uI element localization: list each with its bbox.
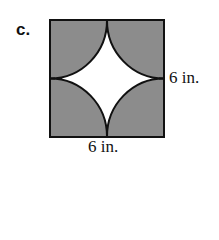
side-length-right: 6 in. <box>169 68 199 88</box>
side-length-bottom: 6 in. <box>88 137 118 157</box>
